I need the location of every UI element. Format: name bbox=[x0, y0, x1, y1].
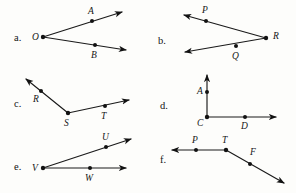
figure-item-a: a.ABO bbox=[14, 6, 126, 60]
point-dot-d-D bbox=[243, 115, 247, 119]
vertex-dot-c-S bbox=[66, 111, 70, 115]
figures-svg-canvas: a.ABOb.PQRc.RTSd.ADCe.UWVf.PFT bbox=[0, 0, 296, 193]
point-dot-b-P bbox=[204, 19, 208, 23]
vertex-dot-f-T bbox=[224, 148, 228, 152]
ray-c-1 bbox=[68, 100, 129, 113]
figure-item-letter-e: e. bbox=[14, 161, 21, 172]
point-label-f-P: P bbox=[191, 135, 198, 145]
ray-b-0 bbox=[184, 15, 266, 38]
vertex-dot-d-C bbox=[205, 115, 209, 119]
ray-b-1 bbox=[185, 38, 266, 52]
point-dot-a-B bbox=[93, 43, 97, 47]
vertex-label-c-S: S bbox=[64, 118, 69, 128]
point-label-a-A: A bbox=[87, 6, 94, 16]
point-label-e-U: U bbox=[102, 132, 110, 142]
point-dot-a-A bbox=[90, 19, 94, 23]
figure-item-letter-c: c. bbox=[14, 98, 21, 109]
point-dot-e-U bbox=[104, 145, 108, 149]
vertex-label-b-R: R bbox=[272, 31, 279, 41]
figure-item-d: d.ADC bbox=[160, 75, 276, 131]
point-label-b-Q: Q bbox=[232, 51, 239, 61]
point-label-c-R: R bbox=[32, 94, 39, 104]
point-label-e-W: W bbox=[85, 173, 94, 183]
point-label-f-F: F bbox=[249, 147, 256, 157]
figure-item-letter-d: d. bbox=[160, 100, 168, 111]
vertex-label-a-O: O bbox=[32, 32, 39, 42]
point-label-c-T: T bbox=[101, 111, 107, 121]
point-label-d-D: D bbox=[240, 121, 248, 131]
vertex-label-d-C: C bbox=[197, 118, 204, 128]
figure-item-e: e.UWV bbox=[14, 132, 131, 183]
ray-a-0 bbox=[43, 12, 122, 37]
figure-item-letter-f: f. bbox=[160, 154, 166, 165]
figure-item-c: c.RTS bbox=[14, 79, 129, 128]
point-dot-c-R bbox=[39, 89, 43, 93]
figure-item-letter-b: b. bbox=[158, 35, 166, 46]
point-dot-c-T bbox=[103, 104, 107, 108]
vertex-label-e-V: V bbox=[32, 163, 39, 173]
point-label-a-B: B bbox=[91, 50, 97, 60]
ray-e-0 bbox=[43, 139, 131, 168]
vertex-label-f-T: T bbox=[222, 135, 228, 145]
point-dot-e-W bbox=[88, 166, 92, 170]
figures-group: a.ABOb.PQRc.RTSd.ADCe.UWVf.PFT bbox=[14, 5, 284, 183]
point-dot-d-A bbox=[205, 90, 209, 94]
vertex-dot-b-R bbox=[264, 36, 268, 40]
ray-a-1 bbox=[43, 37, 126, 50]
figure-item-letter-a: a. bbox=[14, 32, 21, 43]
point-dot-f-F bbox=[248, 162, 252, 166]
figure-item-b: b.PQR bbox=[158, 5, 279, 61]
point-label-b-P: P bbox=[201, 5, 208, 15]
point-label-d-A: A bbox=[196, 86, 203, 96]
vertex-dot-e-V bbox=[41, 166, 45, 170]
point-dot-b-Q bbox=[234, 44, 238, 48]
angle-figures-panel: a.ABOb.PQRc.RTSd.ADCe.UWVf.PFT bbox=[0, 0, 296, 193]
point-dot-f-P bbox=[194, 148, 198, 152]
vertex-dot-a-O bbox=[41, 35, 45, 39]
figure-item-f: f.PFT bbox=[160, 135, 284, 183]
